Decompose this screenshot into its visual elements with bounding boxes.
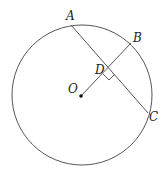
center-point	[79, 94, 83, 98]
circle-diagram: A B C D O	[0, 0, 168, 177]
right-angle-marker	[103, 74, 115, 80]
radius-ob	[81, 43, 131, 96]
label-c: C	[149, 110, 158, 124]
label-b: B	[132, 31, 142, 45]
label-o: O	[68, 82, 78, 96]
label-a: A	[65, 9, 75, 23]
label-d: D	[94, 63, 105, 77]
diagram-canvas: A B C D O	[0, 0, 168, 177]
